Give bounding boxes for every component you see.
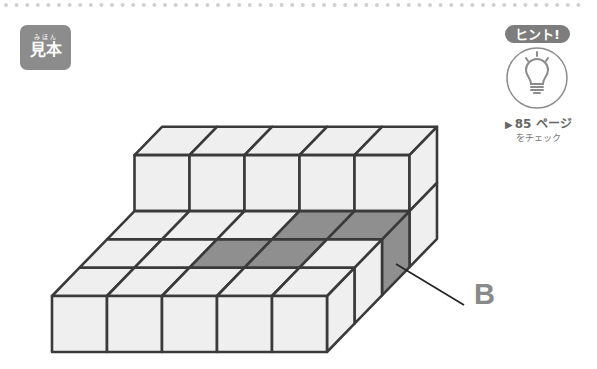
cube-front-face (217, 296, 272, 352)
cube-front-face (245, 155, 300, 211)
cube-front-face (52, 296, 107, 352)
cube-front-face (272, 296, 327, 352)
cube-front-face (355, 155, 410, 211)
cube-front-face (300, 155, 355, 211)
cube-front-face (162, 296, 217, 352)
cube-figure (0, 0, 597, 369)
cube-front-face (190, 155, 245, 211)
callout-line (396, 264, 464, 305)
cube-front-face (135, 155, 190, 211)
cube-front-face (107, 296, 162, 352)
callout-label-b: B (474, 278, 495, 311)
